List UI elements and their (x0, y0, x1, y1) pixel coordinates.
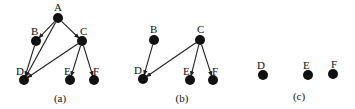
node-c (77, 36, 87, 46)
edge-c-e (191, 45, 199, 76)
node-label: C (197, 23, 204, 35)
node-label: E (64, 65, 71, 77)
edge-c-e (71, 46, 80, 76)
panel-caption: (b) (176, 92, 189, 105)
node-label: E (183, 65, 190, 77)
panel-c: DEF(c) (257, 58, 338, 103)
node-label: E (303, 59, 310, 71)
node-label: F (331, 58, 337, 70)
node-label: D (257, 59, 265, 71)
node-b (149, 35, 159, 45)
node-b (31, 36, 41, 46)
node-label: B (31, 25, 38, 37)
node-label: F (93, 65, 99, 77)
node-label: A (54, 1, 62, 13)
edge-c-f (83, 46, 92, 76)
node-label: B (150, 23, 157, 35)
edge-c-f (202, 45, 212, 76)
edge-b-d (144, 45, 153, 75)
node-label: C (80, 25, 87, 37)
panel-caption: (c) (293, 90, 306, 103)
panel-caption: (a) (54, 92, 67, 105)
dag-figure: ABCDEF(a) BCDEF(b) DEF(c) (0, 0, 355, 109)
panel-b: BCDEF(b) (134, 23, 218, 105)
node-d (258, 70, 268, 80)
node-a (53, 13, 63, 23)
edge-a-b (39, 22, 55, 38)
node-label: D (16, 65, 24, 77)
node-c (195, 35, 205, 45)
panel-a: ABCDEF(a) (16, 1, 99, 105)
node-label: D (134, 64, 142, 76)
edge-b-d (25, 46, 34, 76)
node-f (328, 69, 338, 79)
node-label: F (212, 65, 218, 77)
edge-a-c (62, 21, 80, 38)
node-e (303, 70, 313, 80)
